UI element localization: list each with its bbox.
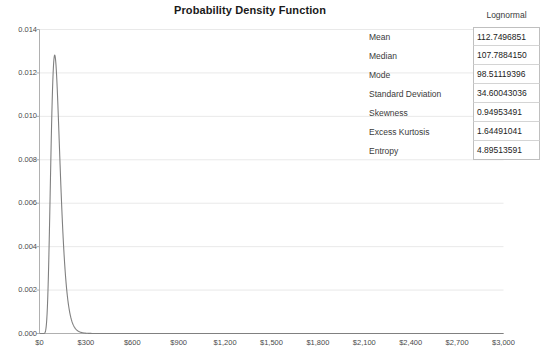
y-axis-tick-label: 0.000 (3, 330, 37, 338)
table-row: Standard Deviation34.60043036 (368, 84, 540, 103)
stat-value[interactable]: 112.7496851 (473, 27, 540, 46)
x-axis-tick-label: $0 (17, 338, 63, 347)
x-axis-tick-label: $2,400 (388, 338, 434, 347)
table-row: Skewness0.94953491 (368, 103, 540, 122)
y-axis-tick-label: 0.002 (3, 286, 37, 294)
y-axis-tick-label: 0.004 (3, 243, 37, 251)
stat-label: Median (368, 46, 473, 65)
stat-label: Mean (368, 27, 473, 46)
table-row: Mode98.51119396 (368, 65, 540, 84)
x-axis-ticks: $0$300$600$900$1,200$1,500$1,800$2,100$2… (0, 338, 545, 352)
stat-value[interactable]: 107.7884150 (473, 46, 540, 65)
stat-value[interactable]: 0.94953491 (473, 103, 540, 122)
stat-value[interactable]: 98.51119396 (473, 65, 540, 84)
y-axis-tick-label: 0.006 (3, 199, 37, 207)
distribution-name-header: Lognormal (473, 10, 540, 20)
x-axis-tick-label: $3,000 (481, 338, 527, 347)
x-axis-tick-label: $600 (109, 338, 155, 347)
x-axis-tick-label: $1,800 (295, 338, 341, 347)
y-axis-tick-label: 0.012 (3, 69, 37, 77)
stat-value[interactable]: 4.89513591 (473, 141, 540, 160)
stat-label: Entropy (368, 141, 473, 160)
table-row: Median107.7884150 (368, 46, 540, 65)
x-axis-tick-label: $2,700 (434, 338, 480, 347)
stat-label: Excess Kurtosis (368, 122, 473, 141)
y-axis-tick-label: 0.014 (3, 26, 37, 34)
table-row: Mean112.7496851 (368, 27, 540, 46)
x-axis-tick-label: $1,500 (249, 338, 295, 347)
table-row: Entropy4.89513591 (368, 141, 540, 160)
y-axis-ticks: 0.0000.0020.0040.0060.0080.0100.0120.014 (0, 0, 37, 364)
y-axis-tick-label: 0.010 (3, 112, 37, 120)
y-axis-tick-label: 0.008 (3, 156, 37, 164)
stat-label: Mode (368, 65, 473, 84)
statistics-table: Lognormal Mean112.7496851Median107.78841… (368, 6, 540, 160)
x-axis-tick-label: $300 (63, 338, 109, 347)
table-row: Excess Kurtosis1.64491041 (368, 122, 540, 141)
x-axis-tick-label: $900 (156, 338, 202, 347)
table-header-row: Lognormal (368, 6, 540, 27)
stat-value[interactable]: 34.60043036 (473, 84, 540, 103)
stat-value[interactable]: 1.64491041 (473, 122, 540, 141)
table-body: Mean112.7496851Median107.7884150Mode98.5… (368, 27, 540, 160)
x-axis-tick-label: $1,200 (202, 338, 248, 347)
x-axis-tick-label: $2,100 (341, 338, 387, 347)
stat-label: Standard Deviation (368, 84, 473, 103)
stat-label: Skewness (368, 103, 473, 122)
